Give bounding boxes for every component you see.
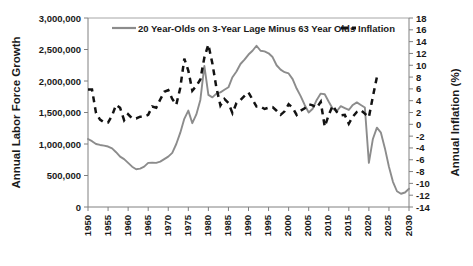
y-axis-left-title: Annual Labor Force Growth xyxy=(10,36,22,188)
legend-label-labor-force: 20 Year-Olds on 3-Year Lage Minus 63 Yea… xyxy=(138,23,355,34)
x-tick-label: 1950 xyxy=(82,215,93,236)
x-tick-label: 1980 xyxy=(202,215,213,236)
y2-tick-label: -8 xyxy=(416,166,424,177)
x-tick-label: 2025 xyxy=(382,214,393,236)
x-tick-label: 2000 xyxy=(282,215,293,236)
x-tick-label: 1995 xyxy=(262,214,273,236)
y-tick-label: 3,000,000 xyxy=(39,13,81,24)
x-tick-label: 2015 xyxy=(342,214,353,236)
x-tick-label: 1990 xyxy=(242,215,253,236)
y2-tick-label: -4 xyxy=(416,142,425,153)
y-tick-label: 2,000,000 xyxy=(39,76,81,87)
y-axis-right-ticks: -14-12-10-8-6-4-2024681012141618 xyxy=(409,13,430,213)
y2-tick-label: 16 xyxy=(416,24,427,35)
legend-label-inflation: Inflation xyxy=(358,23,395,34)
y2-tick-label: 2 xyxy=(416,107,421,118)
y2-tick-label: -12 xyxy=(416,190,430,201)
data-series-group xyxy=(88,45,409,194)
y-tick-label: 2,500,000 xyxy=(39,44,81,55)
chart-figure: 1950195519601965197019751980198519901995… xyxy=(0,0,473,266)
x-axis-ticks: 1950195519601965197019751980198519901995… xyxy=(82,207,414,236)
y2-tick-label: 10 xyxy=(416,60,427,71)
x-tick-label: 1985 xyxy=(222,214,233,236)
x-tick-label: 2005 xyxy=(302,214,313,236)
y2-tick-label: 14 xyxy=(416,36,427,47)
y2-tick-label: 12 xyxy=(416,48,427,59)
y-tick-label: 1,000,000 xyxy=(39,139,81,150)
x-tick-label: 1965 xyxy=(142,214,153,236)
legend: 20 Year-Olds on 3-Year Lage Minus 63 Yea… xyxy=(112,23,395,34)
x-tick-label: 1970 xyxy=(162,215,173,236)
x-tick-label: 1975 xyxy=(182,214,193,236)
x-tick-label: 2010 xyxy=(322,215,333,236)
y2-tick-label: 6 xyxy=(416,83,421,94)
y-axis-left-ticks: 0500,0001,000,0001,500,0002,000,0002,500… xyxy=(39,13,88,213)
plot-frame-group xyxy=(88,18,409,207)
y2-tick-label: 4 xyxy=(416,95,422,106)
x-tick-label: 1960 xyxy=(122,215,133,236)
y-tick-label: 0 xyxy=(76,202,81,213)
x-tick-label: 1955 xyxy=(102,214,113,236)
x-tick-label: 2030 xyxy=(403,215,414,236)
y2-tick-label: -10 xyxy=(416,178,430,189)
y-tick-label: 1,500,000 xyxy=(39,107,81,118)
y-tick-label: 500,000 xyxy=(47,170,81,181)
y-axis-right-title: Annual Inflation (%) xyxy=(449,68,461,176)
y2-tick-label: 8 xyxy=(416,72,421,83)
chart-canvas: 1950195519601965197019751980198519901995… xyxy=(0,0,473,266)
y2-tick-label: 0 xyxy=(416,119,421,130)
series-line-inflation xyxy=(88,45,377,127)
y2-tick-label: -14 xyxy=(416,202,430,213)
series-line-labor-force xyxy=(88,46,409,194)
y2-tick-label: -6 xyxy=(416,154,424,165)
y2-tick-label: -2 xyxy=(416,131,424,142)
x-tick-label: 2020 xyxy=(362,215,373,236)
y2-tick-label: 18 xyxy=(416,13,427,24)
